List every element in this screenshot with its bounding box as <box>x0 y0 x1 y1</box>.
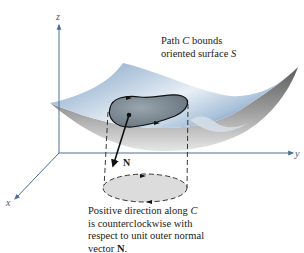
annotation-text: vector <box>88 243 117 253</box>
annotation-text: Path <box>161 35 182 46</box>
x-axis-label: x <box>5 197 11 208</box>
projection-disc <box>103 174 187 202</box>
annotation-path-bounds-surface: Path C bounds oriented surface S <box>161 35 236 60</box>
normal-vector-label: N <box>123 157 131 168</box>
annotation-text: Positive direction along <box>88 205 190 216</box>
annotation-text: oriented surface <box>161 48 231 59</box>
annotation-var-c: C <box>190 205 197 216</box>
annotation-positive-direction: Positive direction along C is counterclo… <box>88 205 204 253</box>
annotation-text: . <box>124 243 127 253</box>
annotation-text: bounds <box>189 35 222 46</box>
annotation-var-s: S <box>231 48 236 59</box>
z-axis-label: z <box>55 11 60 22</box>
y-axis-label: y <box>294 148 300 159</box>
x-axis <box>15 153 59 199</box>
annotation-text: respect to unit outer normal <box>88 230 204 243</box>
annotation-text: is counterclockwise with <box>88 218 204 231</box>
